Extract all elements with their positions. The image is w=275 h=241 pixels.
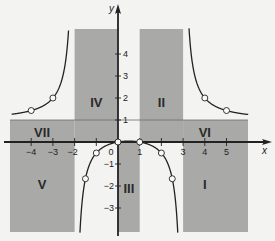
point-marker xyxy=(50,95,56,101)
rational-function-diagram: xy −4−3−2013454321−1−2−3 IIIIIIIVVVIVII xyxy=(0,0,275,241)
right-branch xyxy=(189,28,248,114)
region-iv-shade xyxy=(75,29,118,142)
point-marker xyxy=(115,139,121,145)
x-tick-label: 5 xyxy=(224,147,229,157)
x-tick-label: −3 xyxy=(48,147,58,157)
region-label-iv: IV xyxy=(90,95,103,110)
point-marker xyxy=(82,176,88,182)
region-label-v: V xyxy=(38,177,47,192)
left-branch xyxy=(12,30,69,114)
region-label-vii: VII xyxy=(34,125,50,140)
x-tick-label: 0 xyxy=(108,147,113,157)
point-marker xyxy=(202,95,208,101)
point-marker xyxy=(224,108,230,114)
region-i-shade xyxy=(183,142,248,232)
region-label-vi: VI xyxy=(199,125,211,140)
y-tick-label: 1 xyxy=(123,115,128,125)
x-axis-label: x xyxy=(261,145,268,156)
point-marker xyxy=(28,108,34,114)
plot-area: xy −4−3−2013454321−1−2−3 IIIIIIIVVVIVII xyxy=(0,0,275,241)
y-axis-label: y xyxy=(108,3,115,14)
point-marker xyxy=(93,150,99,156)
region-label-i: I xyxy=(203,177,207,192)
point-marker xyxy=(137,139,143,145)
y-tick-label: 4 xyxy=(123,49,128,59)
region-label-iii: III xyxy=(123,181,134,196)
x-tick-label: −4 xyxy=(26,147,36,157)
x-tick-label: 1 xyxy=(137,147,142,157)
region-label-ii: II xyxy=(158,95,165,110)
region-vi-shade xyxy=(183,120,248,142)
x-tick-label: −2 xyxy=(67,147,77,157)
region-ii-shade xyxy=(140,29,183,142)
y-tick-label: 3 xyxy=(123,71,128,81)
y-tick-label: −2 xyxy=(104,181,114,191)
y-tick-label: 2 xyxy=(123,93,128,103)
point-marker xyxy=(169,176,175,182)
y-tick-label: −3 xyxy=(104,203,114,213)
x-tick-label: 3 xyxy=(181,147,186,157)
x-tick-label: 4 xyxy=(202,147,207,157)
y-tick-label: −1 xyxy=(104,159,114,169)
point-marker xyxy=(158,150,164,156)
